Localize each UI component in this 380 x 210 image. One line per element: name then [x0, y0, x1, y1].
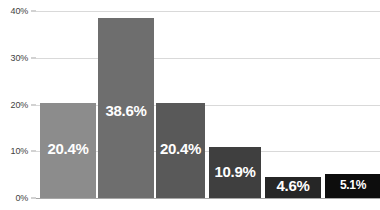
- y-tick-label-10: 10%: [11, 146, 28, 156]
- y-tick-label-0: 0%: [15, 193, 28, 203]
- y-tick-label-30: 30%: [11, 53, 28, 63]
- bar-3-value-label: 20.4%: [156, 140, 205, 157]
- bar-4-value-label: 10.9%: [209, 163, 261, 180]
- gridline-40: [36, 11, 380, 12]
- y-axis: 0% 10% 20% 30% 40%: [0, 0, 36, 210]
- x-axis-category-labels: [36, 201, 380, 210]
- y-tick-label-20: 20%: [11, 100, 28, 110]
- bar-3: 20.4%: [156, 103, 205, 198]
- bar-6: 5.1%: [325, 174, 380, 198]
- bar-1: 20.4%: [40, 103, 96, 198]
- y-tick-label-40: 40%: [11, 6, 28, 16]
- gridline-30: [36, 58, 380, 59]
- bar-2-value-label: 38.6%: [98, 102, 154, 119]
- bar-1-value-label: 20.4%: [40, 140, 96, 157]
- bar-4: 10.9%: [209, 147, 261, 198]
- bar-6-value-label: 5.1%: [325, 178, 380, 192]
- bar-5-value-label: 4.6%: [265, 177, 321, 194]
- bar-5: 4.6%: [265, 177, 321, 199]
- axis-baseline: [36, 198, 380, 199]
- plot-area: 20.4% 38.6% 20.4% 10.9% 4.6% 5.1%: [36, 11, 380, 198]
- bar-chart: 0% 10% 20% 30% 40% 20.4% 38.6% 20.4%: [0, 0, 380, 210]
- bar-2: 38.6%: [98, 18, 154, 199]
